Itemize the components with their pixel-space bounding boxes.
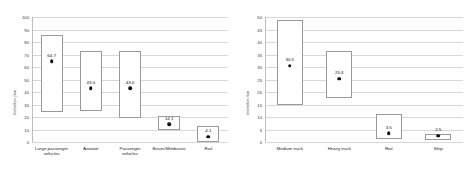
passenger-transport-chart: toe/million pkm010203040506070809010064.…: [0, 0, 235, 173]
range-box: [41, 35, 63, 112]
data-point-label: 30.5: [285, 57, 294, 62]
y-axis-tick-label: 20: [18, 115, 29, 120]
y-axis-tick-label: 50: [251, 15, 262, 20]
y-axis-tick-label: 10: [251, 115, 262, 120]
y-axis-title: toe/million tkm: [246, 90, 250, 114]
range-box: [119, 51, 141, 118]
data-point-label: 4.1: [205, 128, 211, 133]
y-axis-tick-label: 30: [18, 102, 29, 107]
y-axis-tick-label: 45: [251, 27, 262, 32]
x-axis-category-label: Ship: [410, 146, 468, 151]
y-axis-tick-label: 0: [18, 140, 29, 145]
data-point-marker: [436, 134, 440, 138]
x-axis-category-label: Rail: [185, 146, 232, 151]
y-axis-tick-label: 30: [251, 65, 262, 70]
gridline: [32, 30, 228, 31]
y-axis-tick-label: 15: [251, 102, 262, 107]
y-axis-tick-label: 40: [251, 40, 262, 45]
y-axis-tick-label: 70: [18, 52, 29, 57]
data-point-label: 43.0: [126, 79, 135, 84]
y-axis-tick-label: 50: [18, 77, 29, 82]
data-point-label: 25.4: [335, 70, 344, 75]
y-axis-tick-label: 20: [251, 90, 262, 95]
data-point-marker: [128, 86, 132, 90]
data-point-marker: [288, 64, 292, 68]
data-point-label: 64.7: [47, 52, 56, 57]
y-axis-tick-label: 10: [18, 127, 29, 132]
data-point-label: 14.1: [165, 115, 174, 120]
gridline: [32, 17, 228, 18]
gridline: [265, 142, 463, 143]
data-point-marker: [387, 131, 391, 135]
y-axis-tick-label: 40: [18, 90, 29, 95]
y-axis-tick-label: 90: [18, 27, 29, 32]
data-point-label: 43.0: [87, 79, 96, 84]
y-axis-tick-label: 60: [18, 65, 29, 70]
chart-figure: toe/million pkm010203040506070809010064.…: [0, 0, 469, 173]
data-point-label: 2.5: [435, 127, 441, 132]
data-point-marker: [207, 135, 211, 139]
data-point-marker: [337, 77, 341, 81]
gridline: [265, 17, 463, 18]
y-axis-line: [265, 17, 266, 142]
gridline: [32, 142, 228, 143]
y-axis-line: [32, 17, 33, 142]
range-box: [277, 20, 303, 104]
data-point-label: 3.5: [386, 124, 392, 129]
y-axis-tick-label: 80: [18, 40, 29, 45]
gridline: [265, 105, 463, 106]
y-axis-tick-label: 5: [251, 127, 262, 132]
data-point-marker: [50, 59, 54, 63]
data-point-marker: [89, 86, 93, 90]
y-axis-tick-label: 25: [251, 77, 262, 82]
y-axis-tick-label: 100: [18, 15, 29, 20]
gridline: [265, 117, 463, 118]
y-axis-title: toe/million pkm: [13, 89, 17, 114]
freight-transport-chart: toe/million tkm0510152025303540455030.5M…: [235, 0, 469, 173]
y-axis-tick-label: 0: [251, 140, 262, 145]
gridline: [265, 130, 463, 131]
data-point-marker: [167, 123, 171, 127]
y-axis-tick-label: 35: [251, 52, 262, 57]
